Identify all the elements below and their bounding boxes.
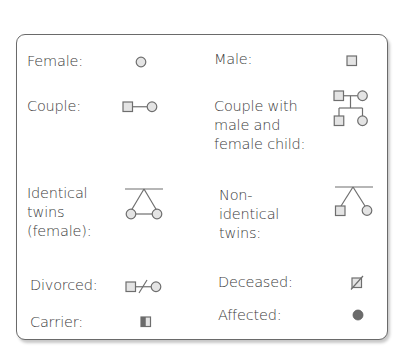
affected-icon [352,309,364,321]
deceased-label: Deceased: [218,273,293,292]
circle-icon [135,56,147,68]
couple-label: Couple: [27,97,81,116]
male-label: Male: [214,50,252,69]
deceased-icon [350,275,366,291]
family-tree-icon [333,89,373,133]
square-icon [346,55,358,67]
carrier-icon [140,316,152,328]
non-identical-twins-icon [334,186,376,222]
couple-with-children-label: Couple with male and female child: [214,97,305,154]
non-identical-twins-label: Non- identical twins: [219,186,279,243]
couple-icon [122,100,162,114]
identical-twins-label: Identical twins (female): [27,184,91,241]
female-label: Female: [27,52,83,71]
identical-twins-icon [124,188,166,224]
divorced-couple-icon [125,279,165,295]
carrier-label: Carrier: [30,313,83,332]
divorced-label: Divorced: [30,276,97,295]
affected-label: Affected: [218,306,281,325]
